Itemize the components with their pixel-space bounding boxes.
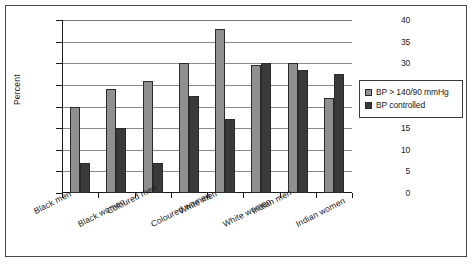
bar — [143, 81, 153, 193]
legend-item: BP controlled — [365, 100, 458, 110]
bar — [251, 65, 261, 193]
y-tick-label: 40 — [386, 16, 410, 25]
bar — [261, 63, 271, 193]
legend-label: BP controlled — [376, 100, 425, 110]
bar-group — [316, 20, 352, 193]
bar — [298, 70, 308, 193]
x-tick-mark — [352, 193, 353, 198]
x-tick-mark — [243, 193, 244, 198]
bar — [116, 128, 126, 193]
x-tick-mark — [171, 193, 172, 198]
bar — [106, 89, 116, 193]
bar-group — [243, 20, 279, 193]
y-tick-label: 30 — [386, 59, 410, 68]
bar — [80, 163, 90, 193]
bar-chart-figure: Percent 0510152025303540 Black menBlack … — [0, 0, 476, 267]
bar — [225, 119, 235, 193]
y-tick-label: 35 — [386, 37, 410, 46]
bar-group — [62, 20, 98, 193]
y-tick-label: 0 — [386, 189, 410, 198]
bar-group — [280, 20, 316, 193]
bar — [189, 96, 199, 193]
legend-swatch-light-icon — [365, 89, 372, 96]
x-tick-mark — [280, 193, 281, 198]
x-tick-mark — [207, 193, 208, 198]
bars-layer — [62, 20, 352, 193]
legend-item: BP > 140/90 mmHg — [365, 87, 458, 97]
bar — [215, 29, 225, 193]
y-tick-label: 10 — [386, 146, 410, 155]
bar — [179, 63, 189, 193]
bar — [153, 163, 163, 193]
x-tick-mark — [98, 193, 99, 198]
x-tick-mark — [135, 193, 136, 198]
x-tick-mark — [316, 193, 317, 198]
legend-label: BP > 140/90 mmHg — [376, 87, 449, 97]
bar-group — [207, 20, 243, 193]
legend-swatch-dark-icon — [365, 102, 372, 109]
x-tick-mark — [62, 193, 63, 198]
chart-legend: BP > 140/90 mmHgBP controlled — [359, 80, 463, 118]
y-axis-title: Percent — [12, 74, 22, 105]
y-tick-label: 5 — [386, 167, 410, 176]
bar-group — [171, 20, 207, 193]
bar — [334, 74, 344, 193]
bar-group — [98, 20, 134, 193]
y-tick-label: 15 — [386, 124, 410, 133]
bar — [324, 98, 334, 193]
bar — [288, 63, 298, 193]
bar-group — [135, 20, 171, 193]
bar — [70, 107, 80, 194]
